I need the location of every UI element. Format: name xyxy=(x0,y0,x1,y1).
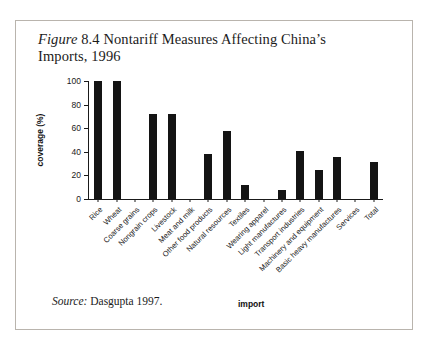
y-axis-tick-label: 100 xyxy=(67,76,81,86)
y-axis-tick-label: 20 xyxy=(72,170,81,180)
y-axis-tick xyxy=(84,105,88,106)
x-axis-line xyxy=(88,199,383,200)
x-axis-tick xyxy=(281,199,282,202)
bar-group: Nongrain crops xyxy=(144,81,162,199)
y-axis-tick xyxy=(84,128,88,129)
x-axis-tick xyxy=(318,199,319,202)
y-axis-tick-label: 40 xyxy=(72,147,81,157)
bar-group: Wheat xyxy=(107,81,125,199)
x-axis-tick xyxy=(226,199,227,202)
x-axis-tick xyxy=(373,199,374,202)
chart-plot-area: 020406080100 coverage (%) RiceWheatCoars… xyxy=(88,81,383,199)
bar-group: Total xyxy=(365,81,383,199)
y-axis-tick-label: 60 xyxy=(72,123,81,133)
bar xyxy=(296,151,304,199)
figure-number: 8.4 xyxy=(81,31,99,47)
x-axis-tick xyxy=(171,199,172,202)
figure-frame: Figure 8.4 Nontariff Measures Affecting … xyxy=(15,20,413,330)
y-axis-tick xyxy=(84,175,88,176)
bar xyxy=(149,114,157,199)
bar-group: Natural resources xyxy=(218,81,236,199)
x-axis-tick xyxy=(245,199,246,202)
y-axis-tick-label: 0 xyxy=(76,194,81,204)
y-axis-title: coverage (%) xyxy=(35,114,45,167)
bar xyxy=(168,114,176,199)
bar xyxy=(333,157,341,199)
x-axis-tick xyxy=(116,199,117,202)
bar-group: Services xyxy=(346,81,364,199)
bar xyxy=(223,131,231,199)
x-axis-tick xyxy=(208,199,209,202)
source-note: Source: Dasgupta 1997. xyxy=(52,295,162,307)
x-axis-tick xyxy=(134,199,135,202)
bar xyxy=(241,185,249,199)
x-axis-title: import xyxy=(238,299,264,309)
bar-group: Coarse grains xyxy=(126,81,144,199)
x-axis-tick xyxy=(300,199,301,202)
x-axis-tick-label: Total xyxy=(362,205,380,223)
source-label: Source: xyxy=(52,295,87,307)
y-axis-tick xyxy=(84,199,88,200)
bar-group: Wearing apparel xyxy=(254,81,272,199)
y-axis-tick-label: 80 xyxy=(72,100,81,110)
bar xyxy=(113,81,121,199)
bar-group: Other food products xyxy=(199,81,217,199)
bar-group: Light manufactures xyxy=(273,81,291,199)
x-axis-tick xyxy=(355,199,356,202)
x-axis-tick xyxy=(263,199,264,202)
x-axis-tick xyxy=(190,199,191,202)
figure-title: Figure 8.4 Nontariff Measures Affecting … xyxy=(38,31,368,65)
source-text: Dasgupta 1997. xyxy=(90,295,162,307)
y-axis-tick xyxy=(84,81,88,82)
bar-group: Textiles xyxy=(236,81,254,199)
bar xyxy=(278,190,286,199)
x-axis-tick xyxy=(337,199,338,202)
bar xyxy=(204,154,212,199)
bar-group: Machinery and equipment xyxy=(310,81,328,199)
bar-group: Rice xyxy=(89,81,107,199)
x-axis-tick xyxy=(153,199,154,202)
bar xyxy=(94,81,102,199)
bar-series: RiceWheatCoarse grainsNongrain cropsLive… xyxy=(89,81,383,199)
bar xyxy=(370,162,378,199)
bar-group: Meat and milk xyxy=(181,81,199,199)
y-axis-tick xyxy=(84,152,88,153)
figure-label: Figure xyxy=(38,31,78,47)
x-axis-tick xyxy=(98,199,99,202)
bar-group: Livestock xyxy=(163,81,181,199)
bar-group: Basic heavy manufactures xyxy=(328,81,346,199)
bar-group: Transport industries xyxy=(291,81,309,199)
bar xyxy=(315,170,323,200)
